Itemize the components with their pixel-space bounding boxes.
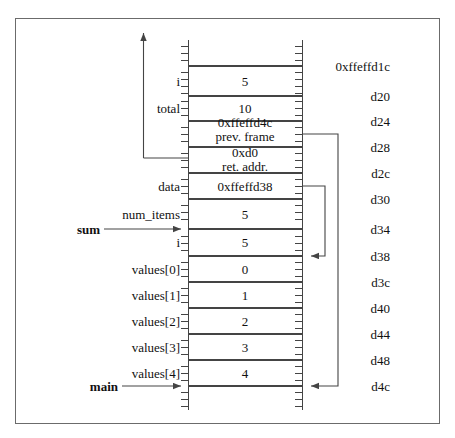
- cell-value-data: 0xffeffd38: [217, 180, 272, 193]
- cell-value-prev-frame-address: 0xffeffd4c: [215, 116, 274, 130]
- address-label-d30: d30: [308, 193, 390, 206]
- cell-value-ret-addr-address: 0xd0: [222, 146, 268, 160]
- address-label-d40: d40: [308, 302, 390, 315]
- cell-value-num-items: 5: [242, 208, 249, 221]
- address-label-d4c: d4c: [308, 380, 390, 393]
- cell-value-prev-frame-caption: prev. frame: [215, 130, 274, 144]
- cell-value-ret-addr: 0xd0 ret. addr.: [222, 146, 268, 174]
- cell-value-values-1: 1: [242, 289, 249, 302]
- address-label-d3c: d3c: [308, 276, 390, 289]
- cell-value-total: 10: [239, 102, 252, 115]
- cell-value-values-2: 2: [242, 315, 249, 328]
- slot-label-values-3: values[3]: [84, 341, 180, 354]
- address-label-d28: d28: [308, 141, 390, 154]
- address-label-d44: d44: [308, 328, 390, 341]
- cell-value-values-4: 4: [242, 367, 249, 380]
- slot-label-total: total: [100, 102, 180, 115]
- address-label-d48: d48: [308, 354, 390, 367]
- slot-label-i-sum-caller: i: [100, 75, 180, 88]
- cell-value-i-caller: 5: [242, 75, 249, 88]
- address-label-0xffeffd1c: 0xffeffd1c: [308, 60, 390, 73]
- slot-label-values-0: values[0]: [84, 263, 180, 276]
- stack-frame-diagram: i total data num_items i values[0] value…: [0, 0, 455, 438]
- cell-value-prev-frame: 0xffeffd4c prev. frame: [215, 116, 274, 144]
- slot-label-i-sum: i: [100, 236, 180, 249]
- slot-label-num-items: num_items: [60, 208, 180, 221]
- address-label-d34: d34: [308, 223, 390, 236]
- slot-label-data: data: [100, 180, 180, 193]
- frame-pointer-main: main: [50, 380, 118, 393]
- cell-value-ret-addr-caption: ret. addr.: [222, 160, 268, 174]
- slot-label-values-1: values[1]: [84, 289, 180, 302]
- address-label-d2c: d2c: [308, 167, 390, 180]
- address-label-d38: d38: [308, 250, 390, 263]
- address-label-d24: d24: [308, 115, 390, 128]
- cell-value-values-3: 3: [242, 341, 249, 354]
- address-label-d20: d20: [308, 90, 390, 103]
- cell-value-values-0: 0: [242, 263, 249, 276]
- cell-value-i-sum: 5: [242, 236, 249, 249]
- slot-label-values-2: values[2]: [84, 315, 180, 328]
- frame-pointer-sum: sum: [40, 223, 100, 236]
